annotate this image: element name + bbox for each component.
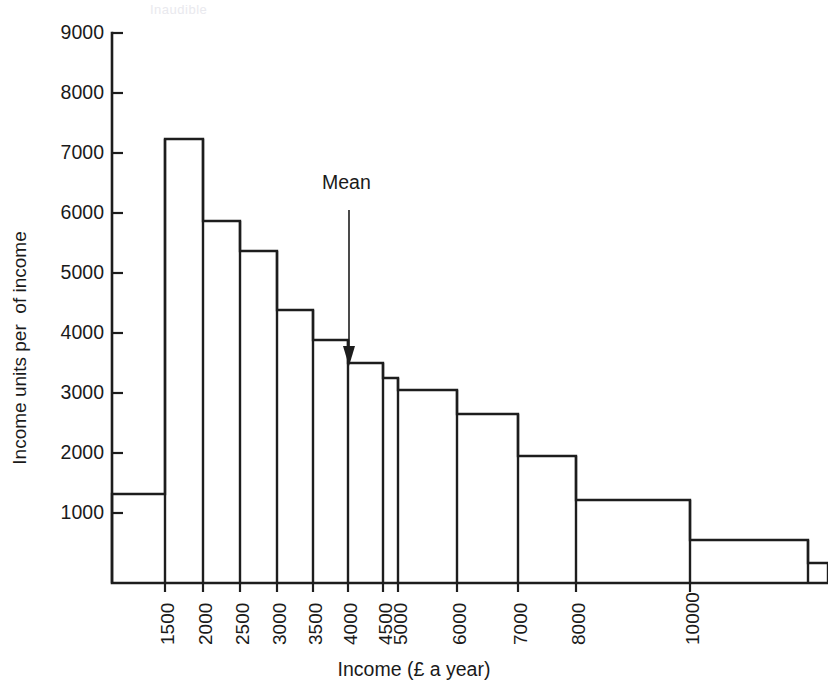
y-tick-label-1000: 1000 xyxy=(61,503,104,523)
y-tick-label-7000: 7000 xyxy=(61,143,104,163)
x-tick-label-5000: 5000 xyxy=(391,603,410,645)
x-tick-label-10000: 10000 xyxy=(683,592,702,645)
x-axis-title: Income (£ a year) xyxy=(0,660,828,680)
y-tick-label-6000: 6000 xyxy=(61,203,104,223)
axis-lines xyxy=(112,33,828,583)
x-tick-label-6000: 6000 xyxy=(450,603,469,645)
x-tick-label-1500: 1500 xyxy=(158,603,177,645)
bar-outline xyxy=(112,139,828,583)
x-tick-label-3500: 3500 xyxy=(306,603,325,645)
mean-annotation-label: Mean xyxy=(322,173,371,193)
x-tick-label-2000: 2000 xyxy=(196,603,215,645)
histogram-plot-area xyxy=(0,0,828,695)
x-tick-label-2500: 2500 xyxy=(233,603,252,645)
mean-arrow xyxy=(343,210,355,366)
x-tick-label-4000: 4000 xyxy=(341,603,360,645)
x-tick-label-7000: 7000 xyxy=(511,603,530,645)
histogram-bars xyxy=(112,139,828,583)
y-tick-label-2000: 2000 xyxy=(61,443,104,463)
x-tick-label-3000: 3000 xyxy=(270,603,289,645)
histogram-figure: Inaudible 100020003000400050006000700080… xyxy=(0,0,828,695)
tick-marks xyxy=(112,33,690,592)
y-axis-title: Income units per of income xyxy=(10,231,29,464)
y-tick-label-8000: 8000 xyxy=(61,83,104,103)
y-tick-label-9000: 9000 xyxy=(61,23,104,43)
y-tick-label-3000: 3000 xyxy=(61,383,104,403)
axes xyxy=(112,33,828,583)
x-tick-label-8000: 8000 xyxy=(569,603,588,645)
y-tick-label-4000: 4000 xyxy=(61,323,104,343)
y-tick-label-5000: 5000 xyxy=(61,263,104,283)
